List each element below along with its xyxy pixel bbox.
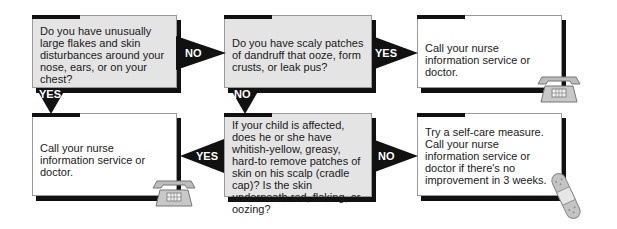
- question-text: Do you have unusually large flakes and s…: [40, 25, 170, 85]
- outcome-text: Call your nurse information service or d…: [40, 142, 170, 178]
- box-accent-bar: [417, 113, 465, 117]
- edge-label: YES: [375, 47, 397, 59]
- arrow-no-q1-to-q2: NO: [176, 36, 226, 70]
- outcome-box-self-care: Try a self-care measure. Call your nurse…: [417, 113, 562, 196]
- question-box-unusual-flakes: Do you have unusually large flakes and s…: [32, 15, 177, 88]
- edge-label: YES: [39, 88, 61, 100]
- arrow-yes-q1-to-a2: YES: [36, 88, 66, 114]
- box-accent-bar: [224, 15, 272, 19]
- telephone-icon: [151, 178, 197, 208]
- outcome-text: Try a self-care measure. Call your nurse…: [425, 126, 555, 186]
- box-accent-bar: [32, 15, 80, 19]
- arrow-yes-q2-to-a1: YES: [372, 36, 418, 70]
- arrow-no-q3-to-a3: NO: [372, 139, 418, 173]
- bandage-icon: [550, 170, 582, 222]
- question-box-cradle-cap: If your child is affected, does he or sh…: [224, 113, 372, 197]
- edge-label: YES: [196, 150, 218, 162]
- edge-label: NO: [234, 88, 251, 100]
- arrow-no-q2-to-q3: NO: [230, 88, 260, 114]
- question-box-scaly-patches: Do you have scaly patches of dandruff th…: [224, 15, 372, 88]
- edge-label: NO: [378, 150, 395, 162]
- question-text: Do you have scaly patches of dandruff th…: [232, 37, 365, 73]
- question-text: If your child is affected, does he or sh…: [232, 119, 365, 215]
- arrow-yes-q3-to-a2: YES: [180, 139, 224, 173]
- edge-label: NO: [185, 47, 202, 59]
- box-accent-bar: [417, 15, 465, 19]
- outcome-text: Call your nurse information service or d…: [425, 42, 555, 78]
- telephone-icon: [536, 74, 582, 104]
